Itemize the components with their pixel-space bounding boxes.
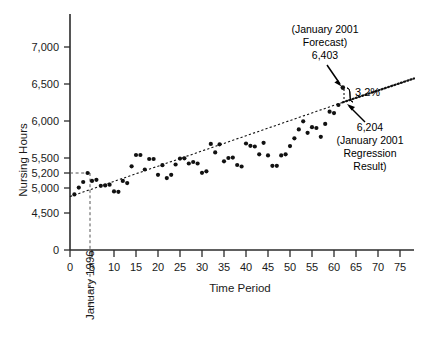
data-point	[262, 141, 266, 145]
x-tick-label-45: 45	[262, 261, 274, 273]
x-axis-title: Time Period	[209, 282, 271, 294]
data-point	[266, 153, 270, 157]
data-point	[169, 173, 173, 177]
data-point	[125, 181, 129, 185]
data-point	[165, 176, 169, 180]
y-tick-label-6000: 6,000	[31, 115, 59, 127]
data-point	[231, 156, 235, 160]
regression-annotation-line4: Result)	[353, 160, 386, 172]
data-point	[275, 164, 279, 168]
data-point	[336, 103, 340, 107]
forecast-annotation-line1: (January 2001	[291, 23, 358, 35]
nursing-hours-scatter-chart: 7,000 6,500 6,000 5,500 5,200 5,000 4,50…	[0, 0, 424, 353]
y-tick-label-5200: 5,200	[31, 167, 59, 179]
y-tick-label-6500: 6,500	[31, 78, 59, 90]
x-tick-label-15: 15	[130, 261, 142, 273]
y-tick-label-5000: 5,000	[31, 182, 59, 194]
regression-annotation-line3: Regression	[343, 147, 396, 159]
data-point	[152, 157, 156, 161]
data-point	[77, 186, 81, 190]
data-point	[204, 169, 208, 173]
y-axis-title: Nursing Hours	[17, 123, 29, 197]
data-point	[257, 152, 261, 156]
data-point	[323, 122, 327, 126]
data-point	[178, 157, 182, 161]
regression-trend-line	[70, 102, 343, 196]
regression-annotation-line2: (January 2001	[336, 134, 403, 146]
data-point	[332, 111, 336, 115]
forecast-annotation: (January 2001 Forecast) 6,403	[291, 23, 358, 86]
data-point	[200, 171, 204, 175]
x-tick-label-50: 50	[284, 261, 296, 273]
data-point	[130, 164, 134, 168]
data-point	[306, 131, 310, 135]
x-tick-label-20: 20	[152, 261, 164, 273]
data-point	[156, 173, 160, 177]
data-point	[191, 160, 195, 164]
jan-1996-label: January 1996	[84, 250, 96, 320]
data-point	[94, 178, 98, 182]
data-point	[284, 152, 288, 156]
data-point	[108, 183, 112, 187]
data-point	[319, 135, 323, 139]
x-tick-label-60: 60	[328, 261, 340, 273]
forecast-arrow-head	[334, 80, 341, 86]
x-tick-label-55: 55	[306, 261, 318, 273]
data-point	[86, 171, 90, 175]
x-tick-label-70: 70	[372, 261, 384, 273]
data-point	[218, 142, 222, 146]
data-point	[222, 159, 226, 163]
y-tick-label-5500: 5,500	[31, 152, 59, 164]
data-point	[209, 142, 213, 146]
data-point	[99, 184, 103, 188]
regression-annotation-value: 6,204	[357, 121, 383, 133]
data-point	[174, 162, 178, 166]
y-tick-label-0: 0	[53, 244, 59, 256]
data-point	[297, 127, 301, 131]
data-point	[90, 179, 94, 183]
data-point	[301, 119, 305, 123]
data-point	[103, 183, 107, 187]
data-point	[81, 180, 85, 184]
data-point	[121, 179, 125, 183]
regression-arrow-head	[347, 104, 355, 110]
data-point	[244, 141, 248, 145]
data-point	[279, 153, 283, 157]
data-point	[292, 136, 296, 140]
x-tick-label-65: 65	[350, 261, 362, 273]
data-point	[270, 164, 274, 168]
data-point	[310, 125, 314, 129]
data-point	[226, 156, 230, 160]
x-tick-label-75: 75	[394, 261, 406, 273]
y-tick-label-7000: 7,000	[31, 41, 59, 53]
x-tick-label-25: 25	[174, 261, 186, 273]
data-point	[187, 161, 191, 165]
data-point	[196, 161, 200, 165]
data-point	[160, 163, 164, 167]
data-point	[134, 153, 138, 157]
x-axis-ticks	[70, 250, 400, 257]
forecast-annotation-line2: Forecast)	[303, 36, 347, 48]
data-point	[248, 144, 252, 148]
data-point	[112, 189, 116, 193]
data-point	[240, 164, 244, 168]
data-point	[143, 167, 147, 171]
data-point	[213, 150, 217, 154]
data-point	[182, 156, 186, 160]
x-axis-tick-labels: 0 5 10 15 20 25 30 35 40 45 50 55 60 65 …	[67, 261, 406, 273]
data-point	[138, 153, 142, 157]
y-axis-ticks	[64, 47, 70, 250]
x-tick-label-40: 40	[240, 261, 252, 273]
x-tick-label-35: 35	[218, 261, 230, 273]
x-tick-label-10: 10	[108, 261, 120, 273]
data-point	[314, 126, 318, 130]
scatter-points	[72, 85, 345, 196]
regression-annotation: 6,204 (January 2001 Regression Result)	[336, 104, 403, 172]
data-point	[328, 110, 332, 114]
data-point	[288, 144, 292, 148]
x-tick-label-30: 30	[196, 261, 208, 273]
x-tick-label-0: 0	[67, 261, 73, 273]
data-point	[147, 157, 151, 161]
forecast-annotation-value: 6,403	[312, 49, 338, 61]
percent-difference-label: 3.2%	[355, 86, 380, 98]
